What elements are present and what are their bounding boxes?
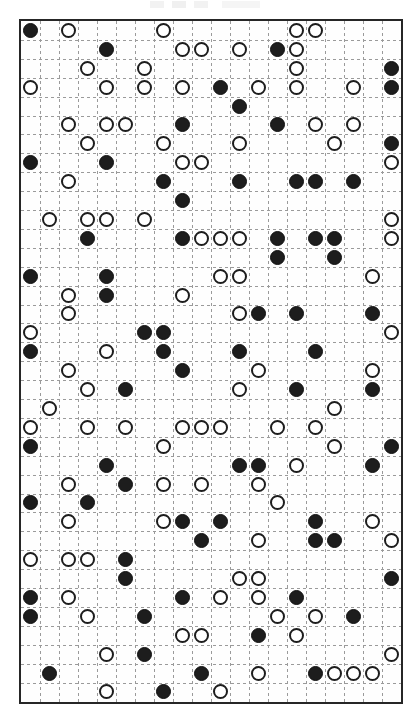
open-token[interactable] <box>194 155 209 170</box>
open-token[interactable] <box>327 666 342 681</box>
filled-token[interactable] <box>308 174 323 189</box>
filled-token[interactable] <box>99 269 114 284</box>
open-token[interactable] <box>289 80 304 95</box>
open-token[interactable] <box>194 477 209 492</box>
open-token[interactable] <box>61 477 76 492</box>
filled-token[interactable] <box>384 61 399 76</box>
filled-token[interactable] <box>99 288 114 303</box>
open-token[interactable] <box>61 23 76 38</box>
open-token[interactable] <box>251 80 266 95</box>
filled-token[interactable] <box>232 174 247 189</box>
open-token[interactable] <box>308 117 323 132</box>
open-token[interactable] <box>346 80 361 95</box>
open-token[interactable] <box>270 495 285 510</box>
open-token[interactable] <box>175 42 190 57</box>
filled-token[interactable] <box>289 174 304 189</box>
open-token[interactable] <box>118 117 133 132</box>
filled-token[interactable] <box>23 495 38 510</box>
open-token[interactable] <box>384 212 399 227</box>
open-token[interactable] <box>175 80 190 95</box>
open-token[interactable] <box>42 401 57 416</box>
open-token[interactable] <box>175 420 190 435</box>
filled-token[interactable] <box>270 42 285 57</box>
open-token[interactable] <box>194 231 209 246</box>
filled-token[interactable] <box>232 99 247 114</box>
open-token[interactable] <box>213 590 228 605</box>
filled-token[interactable] <box>327 533 342 548</box>
open-token[interactable] <box>232 571 247 586</box>
open-token[interactable] <box>118 420 133 435</box>
open-token[interactable] <box>289 628 304 643</box>
open-token[interactable] <box>61 363 76 378</box>
open-token[interactable] <box>232 136 247 151</box>
open-token[interactable] <box>213 231 228 246</box>
open-token[interactable] <box>61 514 76 529</box>
open-token[interactable] <box>251 363 266 378</box>
filled-token[interactable] <box>118 477 133 492</box>
open-token[interactable] <box>308 609 323 624</box>
filled-token[interactable] <box>289 590 304 605</box>
open-token[interactable] <box>156 136 171 151</box>
filled-token[interactable] <box>99 458 114 473</box>
filled-token[interactable] <box>251 628 266 643</box>
filled-token[interactable] <box>384 439 399 454</box>
filled-token[interactable] <box>308 344 323 359</box>
open-token[interactable] <box>137 61 152 76</box>
filled-token[interactable] <box>156 344 171 359</box>
open-token[interactable] <box>23 325 38 340</box>
filled-token[interactable] <box>175 231 190 246</box>
filled-token[interactable] <box>251 458 266 473</box>
open-token[interactable] <box>251 533 266 548</box>
filled-token[interactable] <box>175 363 190 378</box>
filled-token[interactable] <box>232 344 247 359</box>
open-token[interactable] <box>137 212 152 227</box>
open-token[interactable] <box>156 477 171 492</box>
open-token[interactable] <box>384 155 399 170</box>
filled-token[interactable] <box>80 495 95 510</box>
open-token[interactable] <box>232 269 247 284</box>
filled-token[interactable] <box>289 306 304 321</box>
open-token[interactable] <box>251 590 266 605</box>
open-token[interactable] <box>308 23 323 38</box>
open-token[interactable] <box>327 401 342 416</box>
filled-token[interactable] <box>270 117 285 132</box>
filled-token[interactable] <box>118 552 133 567</box>
open-token[interactable] <box>99 117 114 132</box>
open-token[interactable] <box>61 117 76 132</box>
filled-token[interactable] <box>23 344 38 359</box>
filled-token[interactable] <box>137 325 152 340</box>
filled-token[interactable] <box>270 231 285 246</box>
open-token[interactable] <box>137 80 152 95</box>
filled-token[interactable] <box>270 250 285 265</box>
open-token[interactable] <box>270 420 285 435</box>
open-token[interactable] <box>308 420 323 435</box>
filled-token[interactable] <box>327 250 342 265</box>
open-token[interactable] <box>384 647 399 662</box>
filled-token[interactable] <box>23 590 38 605</box>
open-token[interactable] <box>194 420 209 435</box>
open-token[interactable] <box>80 136 95 151</box>
open-token[interactable] <box>365 363 380 378</box>
open-token[interactable] <box>194 628 209 643</box>
filled-token[interactable] <box>308 533 323 548</box>
filled-token[interactable] <box>156 174 171 189</box>
open-token[interactable] <box>213 420 228 435</box>
filled-token[interactable] <box>156 684 171 699</box>
open-token[interactable] <box>80 420 95 435</box>
filled-token[interactable] <box>118 571 133 586</box>
open-token[interactable] <box>99 684 114 699</box>
filled-token[interactable] <box>384 80 399 95</box>
filled-token[interactable] <box>365 306 380 321</box>
open-token[interactable] <box>232 382 247 397</box>
open-token[interactable] <box>99 647 114 662</box>
filled-token[interactable] <box>194 666 209 681</box>
filled-token[interactable] <box>365 458 380 473</box>
open-token[interactable] <box>99 80 114 95</box>
filled-token[interactable] <box>175 590 190 605</box>
open-token[interactable] <box>194 42 209 57</box>
filled-token[interactable] <box>175 117 190 132</box>
filled-token[interactable] <box>346 174 361 189</box>
open-token[interactable] <box>23 552 38 567</box>
filled-token[interactable] <box>175 514 190 529</box>
open-token[interactable] <box>232 231 247 246</box>
